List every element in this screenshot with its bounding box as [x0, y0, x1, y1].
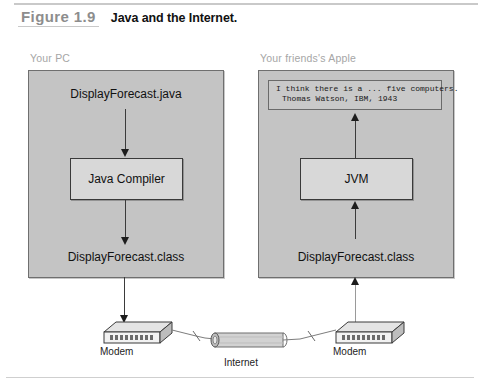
cable-left-a [172, 330, 196, 336]
panel-caption-friends-apple: Your friends's Apple [260, 52, 356, 64]
modem-right-label: Modem [333, 346, 366, 357]
arrow-class-to-jvm-head [351, 201, 359, 209]
modem-left-icon [104, 322, 172, 343]
console-output-line-1: I think there is a ... five computers. [269, 84, 441, 94]
panel-friends-apple: I think there is a ... five computers. T… [258, 70, 454, 278]
class-file-label-right: DisplayForecast.class [259, 250, 453, 264]
arrow-source-to-compiler-head [121, 149, 129, 157]
figure-number-label: Figure 1.9 [18, 8, 99, 27]
class-file-label-left: DisplayForecast.class [29, 250, 223, 264]
jvm-box-label: JVM [345, 172, 369, 186]
arrow-modem-to-apple-head [351, 277, 359, 285]
console-output-box: I think there is a ... five computers. T… [268, 80, 442, 110]
arrow-jvm-to-console-line [355, 120, 356, 158]
cable-right-a [283, 339, 300, 340]
arrow-jvm-to-console-head [351, 113, 359, 121]
console-output-line-2: Thomas Watson, IBM, 1943 [269, 94, 441, 104]
figure-page: Figure 1.9 Java and the Internet. Your P… [0, 0, 478, 385]
bottom-divider [6, 377, 474, 378]
figure-header: Figure 1.9 Java and the Internet. [18, 8, 237, 28]
figure-title: Java and the Internet. [111, 11, 237, 25]
arrow-source-to-compiler-line [125, 109, 126, 151]
arrow-compiler-to-class-head [121, 237, 129, 245]
java-compiler-box-label: Java Compiler [88, 172, 165, 186]
cable-right-b [300, 336, 312, 339]
panel-caption-your-pc: Your PC [30, 52, 70, 64]
top-divider [14, 3, 478, 5]
arrow-compiler-to-class-line [125, 199, 126, 239]
modem-left-label: Modem [100, 346, 133, 357]
jvm-box: JVM [300, 158, 413, 200]
internet-pipe-icon [211, 333, 287, 347]
modem-right-icon [336, 322, 404, 343]
cable-right-c [312, 330, 336, 336]
network-diagram [0, 300, 478, 385]
arrow-class-to-jvm-line [355, 207, 356, 239]
panel-your-pc: DisplayForecast.java Java Compiler Displ… [28, 70, 224, 278]
internet-label: Internet [224, 357, 258, 368]
java-compiler-box: Java Compiler [70, 158, 183, 200]
source-file-label: DisplayForecast.java [29, 87, 223, 101]
